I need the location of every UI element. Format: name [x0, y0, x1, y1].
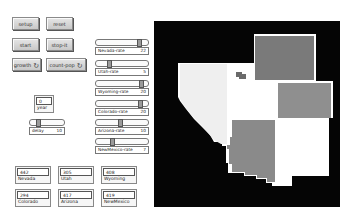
year-value: 0 — [36, 97, 52, 105]
year-monitor: 0 year — [34, 95, 54, 113]
nevada-rate-slider[interactable]: Nevada-rate22 — [95, 39, 149, 55]
newmexico-rate-slider[interactable]: NewMexico-rate7 — [95, 138, 149, 154]
state-map — [154, 21, 340, 207]
newmexico-rate-slider-track[interactable] — [95, 138, 149, 145]
nevada-rate-slider-value: 22 — [141, 48, 146, 54]
wyoming-monitor: 408Wyoming — [101, 166, 137, 184]
newmexico-monitor-value: 419 — [103, 191, 135, 199]
utah-rate-slider[interactable]: Utah-rate5 — [95, 60, 149, 76]
newmexico-rate-slider-label: NewMexico-rate — [98, 147, 133, 153]
delay-slider-value: 10 — [57, 128, 62, 134]
arizona-rate-slider-label: Arizona-rate — [98, 128, 124, 134]
state-wyoming — [255, 36, 314, 80]
nevada-rate-slider-track[interactable] — [95, 39, 149, 46]
growth-label: growth — [14, 62, 31, 68]
setup-button[interactable]: setup — [12, 17, 39, 30]
arizona-monitor-value: 417 — [60, 191, 92, 199]
wyoming-monitor-label: Wyoming — [103, 176, 135, 182]
growth-forever-button[interactable]: growth↻ — [12, 58, 41, 71]
delay-slider-track[interactable] — [29, 119, 65, 126]
count-pop-label: count-pop — [49, 62, 74, 68]
colorado-rate-slider-track[interactable] — [95, 100, 149, 107]
forever-loop-icon: ↻ — [77, 63, 83, 70]
colorado-monitor: 294Colorado — [15, 189, 51, 207]
arizona-monitor: 417Arizona — [58, 189, 94, 207]
utah-monitor-value: 305 — [60, 168, 92, 176]
utah-rate-slider-knob[interactable] — [107, 60, 112, 68]
delay-slider-knob[interactable] — [36, 119, 41, 127]
arizona-rate-slider-track[interactable] — [95, 119, 149, 126]
utah-monitor-label: Utah — [60, 176, 92, 182]
colorado-rate-slider-knob[interactable] — [138, 100, 143, 108]
arizona-monitor-label: Arizona — [60, 199, 92, 205]
reset-button[interactable]: reset — [46, 17, 73, 30]
utah-rate-slider-value: 5 — [143, 69, 146, 75]
newmexico-monitor: 419NewMexico — [101, 189, 137, 207]
wyoming-rate-slider-value: 20 — [141, 89, 146, 95]
wyoming-rate-slider-track[interactable] — [95, 80, 149, 87]
newmexico-rate-slider-value: 7 — [143, 147, 146, 153]
forever-loop-icon: ↻ — [33, 63, 39, 70]
delay-slider[interactable]: delay 10 — [29, 119, 65, 135]
arizona-rate-slider-value: 10 — [141, 128, 146, 134]
colorado-monitor-value: 294 — [17, 191, 49, 199]
nevada-monitor: 442Nevada — [15, 166, 51, 184]
colorado-monitor-label: Colorado — [17, 199, 49, 205]
arizona-rate-slider-knob[interactable] — [118, 119, 123, 127]
colorado-rate-slider-label: Colorado-rate — [98, 109, 128, 115]
start-button[interactable]: start — [12, 38, 39, 51]
count-pop-forever-button[interactable]: count-pop↻ — [46, 58, 86, 71]
world-view[interactable] — [154, 21, 340, 207]
state-nevada — [180, 64, 227, 144]
newmexico-rate-slider-knob[interactable] — [110, 138, 115, 146]
state-colorado — [278, 83, 331, 118]
utah-rate-slider-label: Utah-rate — [98, 69, 118, 75]
nevada-rate-slider-label: Nevada-rate — [98, 48, 125, 54]
utah-rate-slider-track[interactable] — [95, 60, 149, 67]
wyoming-rate-slider[interactable]: Wyoming-rate20 — [95, 80, 149, 96]
utah-monitor: 305Utah — [58, 166, 94, 184]
nevada-rate-slider-knob[interactable] — [137, 39, 142, 47]
delay-slider-label: delay — [32, 128, 44, 134]
stop-it-button[interactable]: stop-it — [46, 38, 73, 51]
wyoming-monitor-value: 408 — [103, 168, 135, 176]
nevada-monitor-label: Nevada — [17, 176, 49, 182]
wyoming-rate-slider-knob[interactable] — [139, 80, 144, 88]
nevada-monitor-value: 442 — [17, 168, 49, 176]
newmexico-monitor-label: NewMexico — [103, 199, 135, 205]
arizona-rate-slider[interactable]: Arizona-rate10 — [95, 119, 149, 135]
colorado-rate-slider[interactable]: Colorado-rate20 — [95, 100, 149, 116]
colorado-rate-slider-value: 20 — [141, 109, 146, 115]
year-label: year — [36, 105, 52, 111]
wyoming-rate-slider-label: Wyoming-rate — [98, 89, 128, 95]
